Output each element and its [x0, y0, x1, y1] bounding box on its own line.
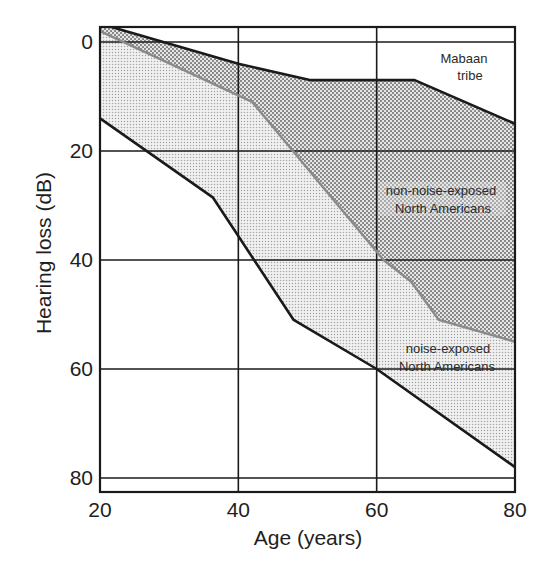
annotation-line: tribe — [457, 68, 482, 83]
shaded-regions — [100, 24, 515, 467]
annotation-mabaan-tribe: Mabaan tribe — [441, 51, 488, 83]
x-axis-title: Age (years) — [254, 526, 363, 549]
x-tick-label: 80 — [503, 498, 526, 521]
annotation-line: noise-exposed — [406, 341, 491, 356]
annotation-non-noise-exposed: non-noise-exposed North Americans — [378, 182, 506, 216]
annotation-line: non-noise-exposed — [386, 183, 497, 198]
y-axis-title: Hearing loss (dB) — [32, 172, 55, 334]
y-tick-label: 20 — [70, 139, 93, 162]
y-tick-label: 60 — [70, 357, 93, 380]
y-tick-label: 40 — [70, 248, 93, 271]
x-tick-label: 40 — [227, 498, 250, 521]
annotation-line: North Americans — [399, 359, 496, 374]
annotation-line: Mabaan — [441, 51, 488, 66]
x-tick-label: 60 — [365, 498, 388, 521]
x-axis-ticks: 20406080 — [88, 498, 526, 521]
y-tick-label: 80 — [70, 466, 93, 489]
annotation-line: North Americans — [395, 201, 492, 216]
x-tick-label: 20 — [88, 498, 111, 521]
hearing-loss-chart: 20406080 020406080 Age (years) Hearing l… — [0, 0, 542, 571]
y-axis-ticks: 020406080 — [70, 30, 93, 489]
y-tick-label: 0 — [81, 30, 93, 53]
